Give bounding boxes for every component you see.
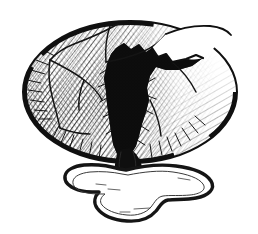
- illustration-canvas: Cracked Egg Spilling A black and white i…: [0, 0, 258, 234]
- cracked-egg-illustration: Cracked Egg Spilling A black and white i…: [0, 0, 258, 234]
